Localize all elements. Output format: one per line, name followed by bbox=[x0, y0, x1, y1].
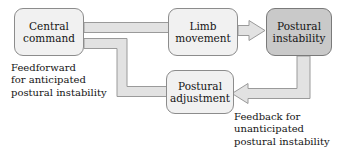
node-limb-movement-line1: Limb bbox=[189, 20, 216, 33]
node-postural-adjustment[interactable]: Postural adjustment bbox=[166, 70, 234, 114]
annotation-feedforward-line3: postural instability bbox=[11, 87, 107, 99]
node-limb-movement[interactable]: Limb movement bbox=[168, 8, 238, 56]
node-postural-instability-line2: instability bbox=[273, 32, 326, 45]
node-postural-instability-line1: Postural bbox=[277, 20, 321, 33]
node-postural-adjustment-line2: adjustment bbox=[170, 92, 230, 105]
node-postural-instability[interactable]: Postural instability bbox=[266, 8, 332, 56]
annotation-feedback: Feedback for unanticipated postural inst… bbox=[234, 111, 330, 148]
annotation-feedforward-line1: Feedforward bbox=[11, 62, 107, 74]
arrow-limb-to-instability bbox=[238, 21, 265, 41]
node-central-command-line2: command bbox=[23, 32, 75, 45]
flowchart-diagram: Central command Limb movement Postural i… bbox=[0, 0, 344, 153]
annotation-feedback-line1: Feedback for bbox=[234, 111, 330, 123]
arrow-instability-to-adjustment bbox=[232, 56, 310, 104]
annotation-feedforward: Feedforward for anticipated postural ins… bbox=[11, 62, 107, 99]
node-central-command-line1: Central bbox=[29, 20, 69, 33]
annotation-feedback-line2: unanticipated bbox=[234, 123, 330, 135]
annotation-feedforward-line2: for anticipated bbox=[11, 74, 107, 86]
node-postural-adjustment-line1: Postural bbox=[178, 80, 222, 93]
annotation-feedback-line3: postural instability bbox=[234, 136, 330, 148]
node-central-command[interactable]: Central command bbox=[14, 8, 84, 56]
node-limb-movement-line2: movement bbox=[175, 32, 231, 45]
